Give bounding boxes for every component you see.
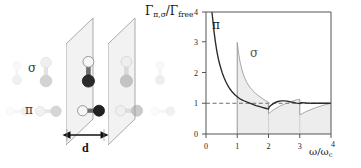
y-ticklabel-1: 1 bbox=[194, 99, 198, 108]
pi-curve bbox=[212, 12, 331, 109]
plate-separation-label: d bbox=[82, 141, 89, 156]
sigma-polarization-label: σ bbox=[28, 62, 36, 74]
y-ticklabel-2: 2 bbox=[194, 69, 198, 78]
x-ticklabel-4: 4 bbox=[331, 140, 335, 149]
pi-polarization-label: π bbox=[25, 104, 33, 116]
x-ticklabel-2: 2 bbox=[267, 142, 271, 151]
x-ticklabel-3: 3 bbox=[298, 142, 302, 151]
x-ticklabel-1: 1 bbox=[235, 142, 239, 151]
chart-plot-svg: 0 1 2 3 4 0 1 2 3 4 bbox=[181, 0, 361, 168]
dipole-pi-in-cavity bbox=[76, 103, 105, 119]
decay-rate-chart: Γπ,σ/Γfree π σ ω/ωc bbox=[181, 0, 361, 168]
y-ticklabel-0: 0 bbox=[194, 130, 198, 139]
parallel-plate-cavity-diagram: σ π d bbox=[0, 0, 181, 168]
dipole-pi-mid-left bbox=[34, 104, 62, 119]
dipole-sigma-outer-left bbox=[11, 60, 23, 86]
y-ticklabel-3: 3 bbox=[194, 38, 198, 47]
x-ticklabel-0: 0 bbox=[204, 142, 208, 151]
y-ticklabel-4: 4 bbox=[194, 8, 198, 17]
dipole-sigma-mid-left bbox=[38, 56, 54, 88]
y-axis-gamma-subscript: π,σ bbox=[153, 10, 165, 19]
dipole-pi-outer-right bbox=[150, 105, 176, 118]
dipole-sigma-second-gap bbox=[118, 55, 135, 89]
figure-root: σ π d Γπ,σ/Γfree π σ ω/ωc bbox=[0, 0, 361, 168]
dipole-sigma-in-cavity bbox=[80, 55, 97, 89]
y-axis-denominator: /Γ bbox=[166, 4, 178, 18]
dipole-sigma-outer-right bbox=[154, 60, 166, 86]
dipole-pi-second-gap bbox=[114, 103, 143, 119]
